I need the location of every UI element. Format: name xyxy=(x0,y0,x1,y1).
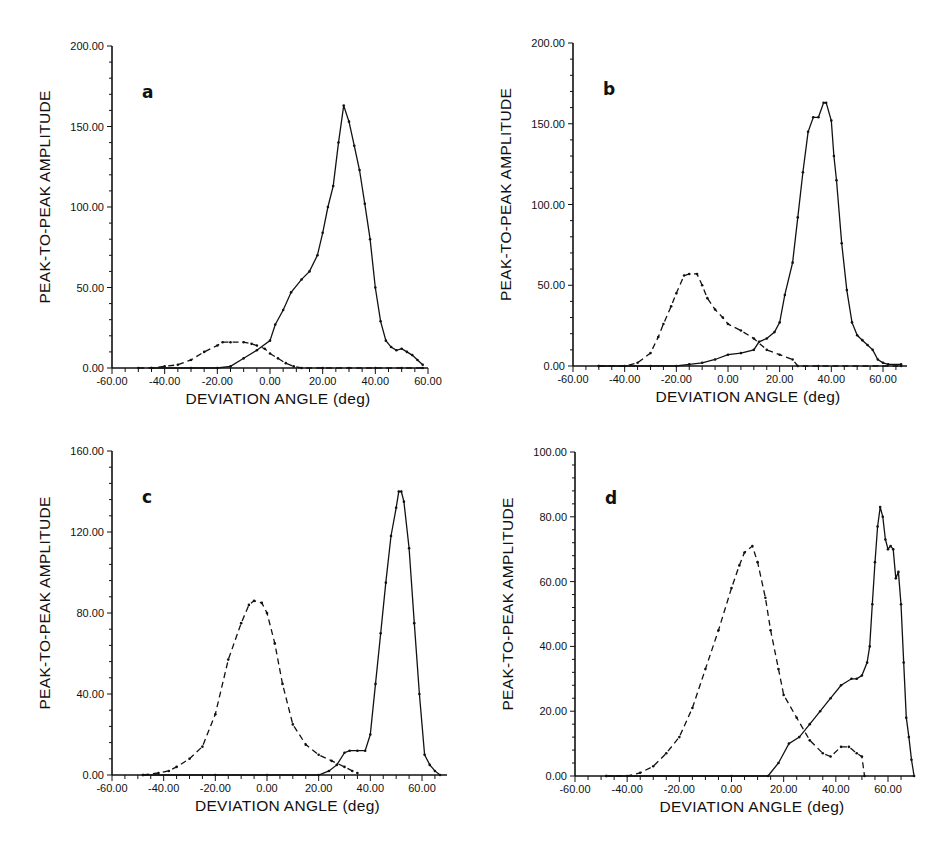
panel-b: 0.0050.00100.00150.00200.00-60.00-40.00-… xyxy=(470,0,939,420)
panel-a: 0.0050.00100.00150.00200.00-60.00-40.00-… xyxy=(0,0,470,420)
y-axis-title: PEAK-TO-PEAK AMPLITUDE xyxy=(499,497,516,710)
y-tick-label: 0.00 xyxy=(83,769,104,781)
chart-a: 0.0050.00100.00150.00200.00-60.00-40.00-… xyxy=(0,0,470,420)
panel-letter: c xyxy=(142,487,152,507)
x-tick-label: 20.00 xyxy=(309,375,337,387)
panel-letter: b xyxy=(603,79,615,99)
x-axis-title: DEVIATION ANGLE (deg) xyxy=(195,797,380,814)
dashed-series xyxy=(599,274,901,366)
x-tick-label: 20.00 xyxy=(766,373,794,385)
solid-series xyxy=(599,103,901,366)
y-tick-label: 160.00 xyxy=(70,445,104,457)
x-tick-label: -40.00 xyxy=(609,373,640,385)
y-tick-label: 40.00 xyxy=(539,640,567,652)
y-tick-label: 60.00 xyxy=(539,576,567,588)
x-tick-label: -60.00 xyxy=(96,375,127,387)
y-tick-label: 200.00 xyxy=(70,40,104,52)
chart-d: 0.0020.0040.0060.0080.00100.00-60.00-40.… xyxy=(470,420,939,850)
y-tick-label: 100.00 xyxy=(533,446,567,458)
y-tick-label: 0.00 xyxy=(546,770,567,782)
x-tick-label: 0.00 xyxy=(256,782,277,794)
x-tick-label: 20.00 xyxy=(305,782,333,794)
solid-series xyxy=(143,492,440,776)
x-tick-label: -60.00 xyxy=(96,782,127,794)
x-tick-label: 60.00 xyxy=(874,783,902,795)
x-tick-label: 60.00 xyxy=(869,373,897,385)
dashed-series xyxy=(138,342,422,368)
panel-letter: d xyxy=(605,488,617,508)
x-tick-label: 60.00 xyxy=(414,375,442,387)
panel-d: 0.0020.0040.0060.0080.00100.00-60.00-40.… xyxy=(470,420,939,850)
y-tick-label: 20.00 xyxy=(539,705,567,717)
y-axis-title: PEAK-TO-PEAK AMPLITUDE xyxy=(497,88,514,301)
y-tick-label: 80.00 xyxy=(539,511,567,523)
x-tick-label: -40.00 xyxy=(149,375,180,387)
x-tick-label: 20.00 xyxy=(770,783,798,795)
x-tick-label: 40.00 xyxy=(822,783,850,795)
y-tick-label: 50.00 xyxy=(537,279,565,291)
y-tick-label: 0.00 xyxy=(83,362,104,374)
x-tick-label: 60.00 xyxy=(408,782,436,794)
x-tick-label: 40.00 xyxy=(362,375,390,387)
y-tick-label: 200.00 xyxy=(531,37,565,49)
y-tick-label: 80.00 xyxy=(76,607,104,619)
x-tick-label: -20.00 xyxy=(664,783,695,795)
chart-b: 0.0050.00100.00150.00200.00-60.00-40.00-… xyxy=(470,0,939,420)
x-tick-label: 0.00 xyxy=(717,373,738,385)
y-tick-label: 150.00 xyxy=(70,121,104,133)
y-tick-label: 120.00 xyxy=(70,526,104,538)
y-tick-label: 40.00 xyxy=(76,688,104,700)
panel-c: 0.0040.0080.00120.00160.00-60.00-40.00-2… xyxy=(0,420,470,850)
y-tick-label: 100.00 xyxy=(531,199,565,211)
dashed-series xyxy=(143,601,357,775)
x-tick-label: 0.00 xyxy=(259,375,280,387)
y-axis-title: PEAK-TO-PEAK AMPLITUDE xyxy=(36,496,53,709)
x-axis-title: DEVIATION ANGLE (deg) xyxy=(659,798,844,815)
y-tick-label: 150.00 xyxy=(531,118,565,130)
x-tick-label: -20.00 xyxy=(200,782,231,794)
y-tick-label: 100.00 xyxy=(70,201,104,213)
chart-c: 0.0040.0080.00120.00160.00-60.00-40.00-2… xyxy=(0,420,470,850)
y-axis-title: PEAK-TO-PEAK AMPLITUDE xyxy=(36,90,53,303)
x-tick-label: -20.00 xyxy=(661,373,692,385)
x-axis-title: DEVIATION ANGLE (deg) xyxy=(655,388,840,405)
x-tick-label: -40.00 xyxy=(612,783,643,795)
y-tick-label: 0.00 xyxy=(544,360,565,372)
x-tick-label: 40.00 xyxy=(818,373,846,385)
x-tick-label: 0.00 xyxy=(721,783,742,795)
x-tick-label: -40.00 xyxy=(148,782,179,794)
solid-series xyxy=(606,507,914,776)
y-tick-label: 50.00 xyxy=(76,282,104,294)
panel-letter: a xyxy=(142,82,153,102)
x-tick-label: -60.00 xyxy=(559,783,590,795)
x-tick-label: -20.00 xyxy=(202,375,233,387)
solid-series xyxy=(152,106,423,368)
x-axis-title: DEVIATION ANGLE (deg) xyxy=(185,390,370,407)
x-tick-label: -60.00 xyxy=(557,373,588,385)
dashed-series xyxy=(606,546,864,776)
x-tick-label: 40.00 xyxy=(357,782,385,794)
